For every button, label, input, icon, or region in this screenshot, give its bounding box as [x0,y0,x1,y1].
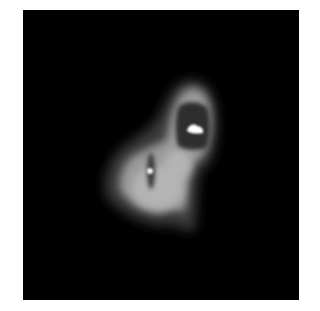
blob-image [23,10,299,300]
image-frame: Grayscale blurred two-lobed bright objec… [23,10,299,300]
lower-hotspot [147,168,153,174]
